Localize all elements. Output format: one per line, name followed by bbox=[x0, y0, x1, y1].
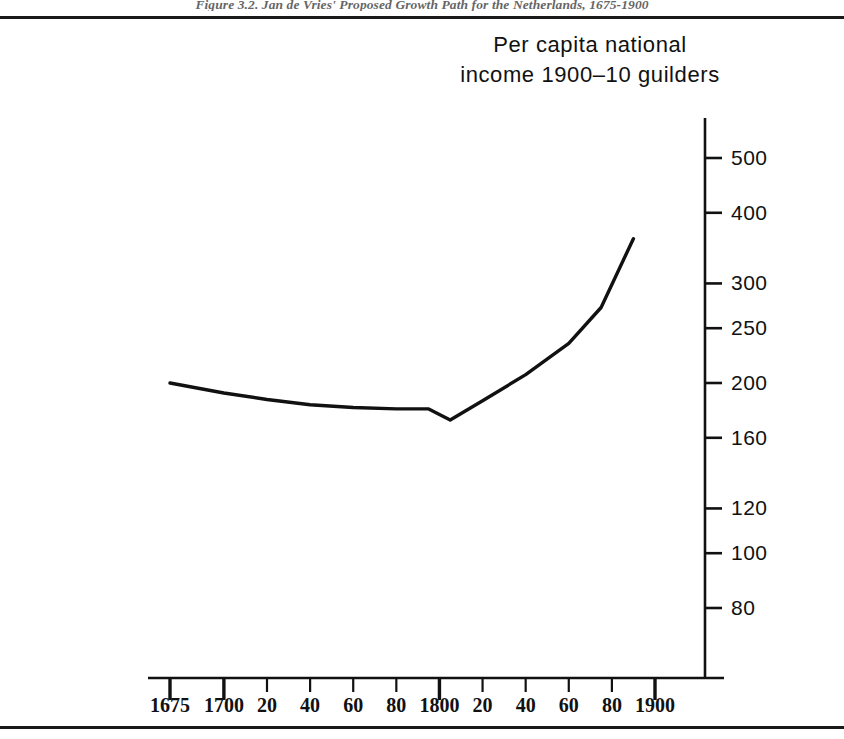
x-axis-tick-label: 40 bbox=[516, 694, 536, 717]
y-axis-tick-label: 120 bbox=[731, 496, 768, 520]
x-axis-tick-label: 1900 bbox=[635, 694, 675, 717]
y-axis-tick-label: 400 bbox=[731, 201, 768, 225]
y-axis-tick-label: 250 bbox=[731, 316, 768, 340]
data-series-line bbox=[170, 239, 633, 420]
y-axis-tick-marks bbox=[705, 158, 722, 608]
x-axis-tick-label: 60 bbox=[559, 694, 579, 717]
y-axis-tick-label: 300 bbox=[731, 271, 768, 295]
x-axis-tick-label: 60 bbox=[343, 694, 363, 717]
y-axis-tick-label: 100 bbox=[731, 541, 768, 565]
x-axis-tick-label: 80 bbox=[386, 694, 406, 717]
x-axis-tick-label: 20 bbox=[257, 694, 277, 717]
x-axis-tick-label: 40 bbox=[300, 694, 320, 717]
line-chart-plot bbox=[0, 0, 844, 739]
y-axis-tick-label: 80 bbox=[731, 596, 755, 620]
x-axis-tick-label: 1700 bbox=[204, 694, 244, 717]
axes bbox=[148, 118, 724, 678]
x-axis-tick-label: 20 bbox=[473, 694, 493, 717]
x-axis-tick-label: 80 bbox=[602, 694, 622, 717]
y-axis-tick-label: 200 bbox=[731, 371, 768, 395]
y-axis-tick-label: 160 bbox=[731, 426, 768, 450]
y-axis-tick-label: 500 bbox=[731, 146, 768, 170]
x-axis-tick-label: 1800 bbox=[419, 694, 459, 717]
x-axis-tick-label: 1675 bbox=[150, 694, 190, 717]
